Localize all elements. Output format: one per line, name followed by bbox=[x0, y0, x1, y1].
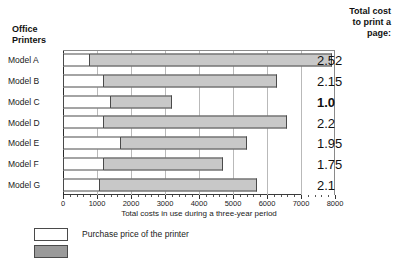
bar-row bbox=[63, 50, 301, 71]
y-axis-label: Model E bbox=[8, 138, 61, 148]
annotation-value: 2.2 bbox=[317, 115, 369, 130]
x-tick-minor bbox=[104, 195, 105, 197]
y-axis-label: Model B bbox=[8, 76, 61, 86]
bar-row bbox=[63, 133, 301, 154]
bar-segment-usage-costs bbox=[104, 157, 223, 170]
x-tick-minor bbox=[226, 195, 227, 197]
annotation-value: 1.95 bbox=[317, 136, 369, 151]
bar-rows bbox=[63, 50, 301, 195]
bar-segment-usage-costs bbox=[104, 116, 288, 129]
y-axis-labels: Model AModel BModel CModel DModel EModel… bbox=[8, 50, 61, 195]
legend-label-purchase-price: Purchase price of the printer bbox=[82, 229, 189, 239]
x-tick-minor bbox=[145, 195, 146, 197]
x-tick-label: 4000 bbox=[191, 199, 208, 208]
x-tick-minor bbox=[315, 195, 316, 197]
x-tick-minor bbox=[219, 195, 220, 197]
x-tick-minor bbox=[247, 195, 248, 197]
plot-area bbox=[63, 50, 301, 195]
annotation-column-header: Total cost to print a page: bbox=[319, 6, 391, 39]
category-header-line2: Printers bbox=[12, 35, 72, 46]
x-tick-minor bbox=[111, 195, 112, 197]
annotation-header-line2: to print a bbox=[319, 17, 391, 28]
y-axis-label: Model C bbox=[8, 97, 61, 107]
x-tick-minor bbox=[138, 195, 139, 197]
bar-segment-usage-costs bbox=[121, 137, 247, 150]
x-tick-minor bbox=[172, 195, 173, 197]
x-tick-minor bbox=[294, 195, 295, 197]
annotation-value: 2.15 bbox=[317, 74, 369, 89]
bar-row bbox=[63, 112, 301, 133]
annotation-value: 1.75 bbox=[317, 156, 369, 171]
annotation-value: 1.0 bbox=[317, 94, 369, 109]
bar-segment-usage-costs bbox=[90, 54, 331, 67]
bar-segment-purchase-price bbox=[63, 137, 121, 150]
bar-segment-usage-costs bbox=[104, 75, 277, 88]
x-tick-minor bbox=[179, 195, 180, 197]
x-tick-minor bbox=[213, 195, 214, 197]
x-tick-minor bbox=[281, 195, 282, 197]
bar-segment-purchase-price bbox=[63, 54, 90, 67]
x-tick-minor bbox=[328, 195, 329, 197]
x-tick-minor bbox=[308, 195, 309, 197]
x-tick-minor bbox=[124, 195, 125, 197]
y-axis-label: Model G bbox=[8, 180, 61, 190]
stacked-bar bbox=[63, 95, 172, 108]
annotation-header-line3: page: bbox=[319, 28, 391, 39]
bar-segment-usage-costs bbox=[111, 95, 172, 108]
x-tick-label: 0 bbox=[61, 199, 65, 208]
x-tick-minor bbox=[321, 195, 322, 197]
bar-segment-purchase-price bbox=[63, 157, 104, 170]
bar-row bbox=[63, 71, 301, 92]
bar-segment-usage-costs bbox=[100, 178, 256, 191]
x-tick-minor bbox=[185, 195, 186, 197]
x-tick-minor bbox=[117, 195, 118, 197]
x-tick-minor bbox=[240, 195, 241, 197]
x-tick-minor bbox=[260, 195, 261, 197]
category-header-line1: Office bbox=[12, 24, 72, 35]
y-axis-label: Model F bbox=[8, 159, 61, 169]
legend-swatch-purchase-price bbox=[34, 228, 68, 241]
bar-row bbox=[63, 154, 301, 175]
x-tick-label: 8000 bbox=[327, 199, 344, 208]
annotation-header-line1: Total cost bbox=[319, 6, 391, 17]
bar-segment-purchase-price bbox=[63, 178, 100, 191]
x-tick-minor bbox=[90, 195, 91, 197]
x-tick-label: 5000 bbox=[225, 199, 242, 208]
x-tick-minor bbox=[151, 195, 152, 197]
legend-item-purchase-price: Purchase price of the printer bbox=[10, 227, 390, 244]
stacked-bar bbox=[63, 75, 277, 88]
chart-figure: Office Printers Total cost to print a pa… bbox=[0, 0, 397, 260]
bar-row bbox=[63, 174, 301, 195]
y-axis-label: Model A bbox=[8, 55, 61, 65]
stacked-bar bbox=[63, 54, 332, 67]
x-tick-label: 1000 bbox=[89, 199, 106, 208]
x-tick-minor bbox=[274, 195, 275, 197]
bar-row bbox=[63, 91, 301, 112]
x-tick-minor bbox=[83, 195, 84, 197]
bar-segment-purchase-price bbox=[63, 116, 104, 129]
x-tick-minor bbox=[158, 195, 159, 197]
chart-legend: Purchase price of the printer bbox=[10, 227, 390, 260]
legend-item-usage-costs bbox=[10, 244, 390, 260]
x-tick-minor bbox=[206, 195, 207, 197]
x-tick-label: 3000 bbox=[157, 199, 174, 208]
x-tick-label: 6000 bbox=[259, 199, 276, 208]
annotation-value: 2.52 bbox=[317, 53, 369, 68]
stacked-bar bbox=[63, 157, 223, 170]
stacked-bar bbox=[63, 178, 257, 191]
x-tick-minor bbox=[192, 195, 193, 197]
x-tick-label: 7000 bbox=[293, 199, 310, 208]
legend-swatch-usage-costs bbox=[34, 245, 68, 258]
x-tick-minor bbox=[287, 195, 288, 197]
stacked-bar bbox=[63, 137, 247, 150]
chart-category-header: Office Printers bbox=[12, 24, 72, 46]
x-axis-title: Total costs in use during a three-year p… bbox=[63, 209, 335, 218]
annotation-value: 2.1 bbox=[317, 177, 369, 192]
grid-line-7000 bbox=[301, 50, 302, 195]
stacked-bar bbox=[63, 116, 287, 129]
x-tick-minor bbox=[253, 195, 254, 197]
x-tick-minor bbox=[77, 195, 78, 197]
bar-segment-purchase-price bbox=[63, 75, 104, 88]
annotation-values: 2.522.151.02.21.951.752.1 bbox=[317, 50, 391, 195]
x-tick-minor bbox=[70, 195, 71, 197]
